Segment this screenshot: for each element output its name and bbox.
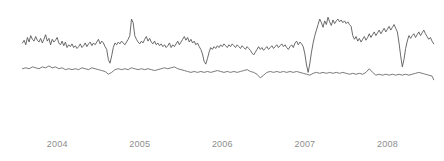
chart-background — [0, 0, 444, 161]
chart-plot-area — [0, 0, 444, 161]
sparkline-chart: 20042005200620072008 — [0, 0, 444, 161]
